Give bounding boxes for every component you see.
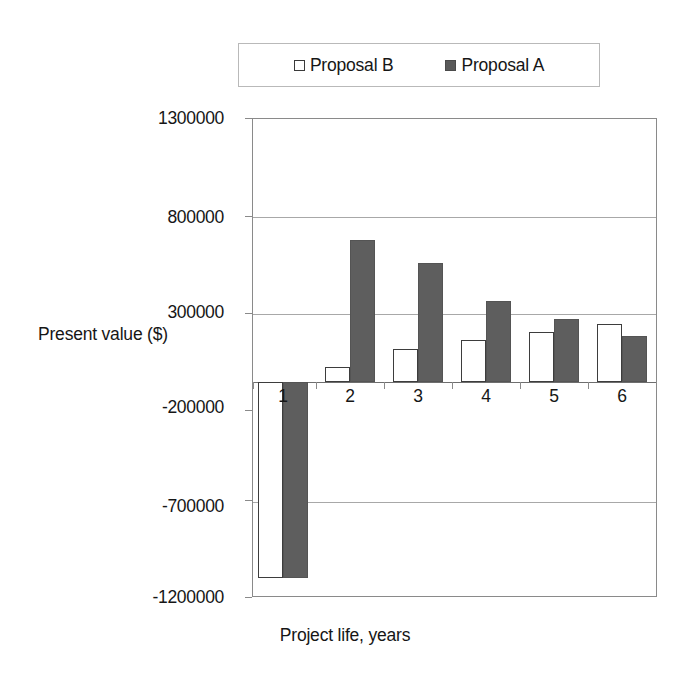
y-tick-mark bbox=[245, 118, 252, 119]
x-tick-mark bbox=[588, 382, 589, 389]
y-tick-label-800000: 800000 bbox=[0, 207, 224, 228]
y-tick-label--700000: -700000 bbox=[0, 496, 224, 517]
bar-proposal-b-1 bbox=[258, 382, 283, 578]
hollow-square-icon bbox=[294, 60, 305, 71]
bar-proposal-a-6 bbox=[622, 336, 647, 382]
bar-proposal-a-1 bbox=[283, 382, 308, 578]
x-tick-label-4: 4 bbox=[456, 386, 516, 407]
legend-label-proposal-b: Proposal B bbox=[310, 55, 394, 76]
y-tick-mark bbox=[245, 500, 252, 501]
y-tick-label--1200000: -1200000 bbox=[0, 587, 224, 608]
x-tick-label-1: 1 bbox=[253, 386, 313, 407]
gridline-800000 bbox=[253, 217, 656, 218]
legend-entry-proposal-a: Proposal A bbox=[445, 55, 544, 76]
bar-proposal-b-6 bbox=[597, 324, 622, 382]
bar-proposal-a-4 bbox=[486, 301, 511, 382]
bar-proposal-b-2 bbox=[325, 367, 350, 382]
y-tick-label-300000: 300000 bbox=[0, 302, 224, 323]
filled-square-icon bbox=[445, 60, 456, 71]
legend-entry-proposal-b: Proposal B bbox=[294, 55, 394, 76]
y-tick-mark bbox=[245, 313, 252, 314]
y-tick-label-1300000: 1300000 bbox=[0, 108, 224, 129]
chart-legend: Proposal B Proposal A bbox=[238, 43, 600, 87]
bar-proposal-b-3 bbox=[393, 349, 418, 382]
y-tick-mark bbox=[245, 216, 252, 217]
x-tick-mark bbox=[384, 382, 385, 389]
x-tick-label-3: 3 bbox=[388, 386, 448, 407]
x-tick-label-2: 2 bbox=[320, 386, 380, 407]
y-axis-title: Present value ($) bbox=[38, 324, 168, 345]
gridline-300000 bbox=[253, 314, 656, 315]
y-tick-mark bbox=[245, 410, 252, 411]
x-tick-label-5: 5 bbox=[524, 386, 584, 407]
x-tick-mark bbox=[316, 382, 317, 389]
gridline--700000 bbox=[253, 502, 656, 503]
bar-proposal-a-5 bbox=[554, 319, 579, 382]
zero-axis-line bbox=[253, 382, 656, 383]
legend-label-proposal-a: Proposal A bbox=[461, 55, 544, 76]
bar-proposal-b-5 bbox=[529, 332, 554, 382]
y-tick-mark bbox=[245, 597, 252, 598]
x-tick-mark bbox=[520, 382, 521, 389]
plot-area bbox=[252, 118, 657, 597]
bar-chart: Proposal B Proposal A 1300000 800000 300… bbox=[0, 0, 690, 677]
bar-proposal-a-3 bbox=[418, 263, 443, 382]
bar-proposal-a-2 bbox=[350, 240, 375, 382]
x-axis-title: Project life, years bbox=[0, 625, 690, 646]
x-tick-label-6: 6 bbox=[592, 386, 652, 407]
y-tick-label--200000: -200000 bbox=[0, 397, 224, 418]
bar-proposal-b-4 bbox=[461, 340, 486, 382]
x-tick-mark bbox=[452, 382, 453, 389]
